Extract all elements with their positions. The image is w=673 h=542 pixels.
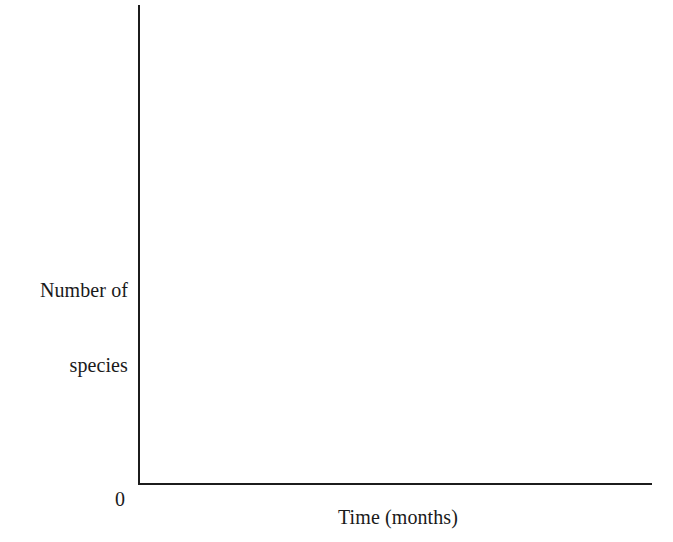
y-axis-label-line-2: species	[0, 353, 128, 378]
y-axis-label: Number of species	[0, 228, 128, 428]
x-axis-line	[138, 483, 652, 485]
plot-area	[140, 5, 652, 483]
figure-root: Number of species Time (months) 0	[0, 0, 673, 542]
x-axis-label: Time (months)	[238, 505, 558, 530]
origin-tick-label: 0	[104, 487, 136, 512]
y-axis-line	[138, 5, 140, 485]
y-axis-label-line-1: Number of	[0, 278, 128, 303]
